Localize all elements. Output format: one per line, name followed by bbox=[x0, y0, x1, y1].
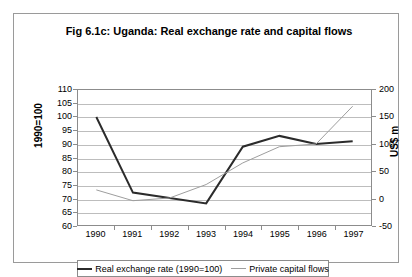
x-tick-mark bbox=[188, 226, 189, 230]
x-tick-label: 1994 bbox=[223, 230, 263, 239]
right-tick-mark bbox=[372, 226, 376, 227]
right-tick-mark bbox=[372, 171, 376, 172]
left-tick-label: 105 bbox=[44, 99, 72, 108]
left-tick-label: 100 bbox=[44, 112, 72, 121]
left-tick-label: 75 bbox=[44, 181, 72, 190]
x-tick-mark bbox=[151, 226, 152, 230]
right-tick-label: 200 bbox=[379, 85, 407, 94]
series-line bbox=[96, 106, 352, 201]
legend-entry-real-exchange-rate: Real exchange rate (1990=100) bbox=[77, 264, 222, 274]
x-tick-label: 1995 bbox=[260, 230, 300, 239]
x-tick-mark bbox=[261, 226, 262, 230]
series-line bbox=[96, 117, 352, 203]
right-tick-mark bbox=[372, 89, 376, 90]
left-tick-label: 95 bbox=[44, 126, 72, 135]
right-tick-mark bbox=[372, 199, 376, 200]
left-tick-label: 70 bbox=[44, 195, 72, 204]
series-lines bbox=[78, 90, 371, 225]
x-tick-label: 1997 bbox=[334, 230, 374, 239]
left-tick-mark bbox=[73, 226, 77, 227]
plot-area bbox=[77, 89, 372, 226]
right-tick-label: 0 bbox=[379, 195, 407, 204]
legend-line-swatch-icon bbox=[231, 268, 246, 269]
x-tick-label: 1993 bbox=[186, 230, 226, 239]
left-tick-label: 85 bbox=[44, 154, 72, 163]
right-tick-label: 150 bbox=[379, 112, 407, 121]
right-tick-label: 50 bbox=[379, 167, 407, 176]
x-tick-mark bbox=[298, 226, 299, 230]
figure-frame: Fig 6.1c: Uganda: Real exchange rate and… bbox=[13, 13, 399, 263]
left-axis-title: 1990=100 bbox=[33, 86, 44, 166]
x-tick-mark bbox=[335, 226, 336, 230]
legend-label: Private capital flows bbox=[249, 264, 329, 274]
x-tick-label: 1991 bbox=[112, 230, 152, 239]
chart-title: Fig 6.1c: Uganda: Real exchange rate and… bbox=[59, 24, 359, 38]
left-tick-label: 80 bbox=[44, 167, 72, 176]
right-tick-mark bbox=[372, 116, 376, 117]
legend-line-swatch-icon bbox=[77, 268, 92, 270]
legend-entry-private-capital-flows: Private capital flows bbox=[231, 264, 329, 274]
x-tick-mark bbox=[225, 226, 226, 230]
chart-legend: Real exchange rate (1990=100) Private ca… bbox=[77, 260, 329, 277]
left-tick-label: 65 bbox=[44, 208, 72, 217]
legend-label: Real exchange rate (1990=100) bbox=[95, 264, 222, 274]
right-tick-label: 100 bbox=[379, 140, 407, 149]
x-tick-mark bbox=[114, 226, 115, 230]
left-tick-label: 90 bbox=[44, 140, 72, 149]
right-tick-label: -50 bbox=[379, 222, 407, 231]
x-tick-label: 1990 bbox=[75, 230, 115, 239]
left-tick-label: 60 bbox=[44, 222, 72, 231]
left-tick-label: 110 bbox=[44, 85, 72, 94]
right-tick-mark bbox=[372, 144, 376, 145]
x-tick-label: 1996 bbox=[297, 230, 337, 239]
x-tick-label: 1992 bbox=[149, 230, 189, 239]
